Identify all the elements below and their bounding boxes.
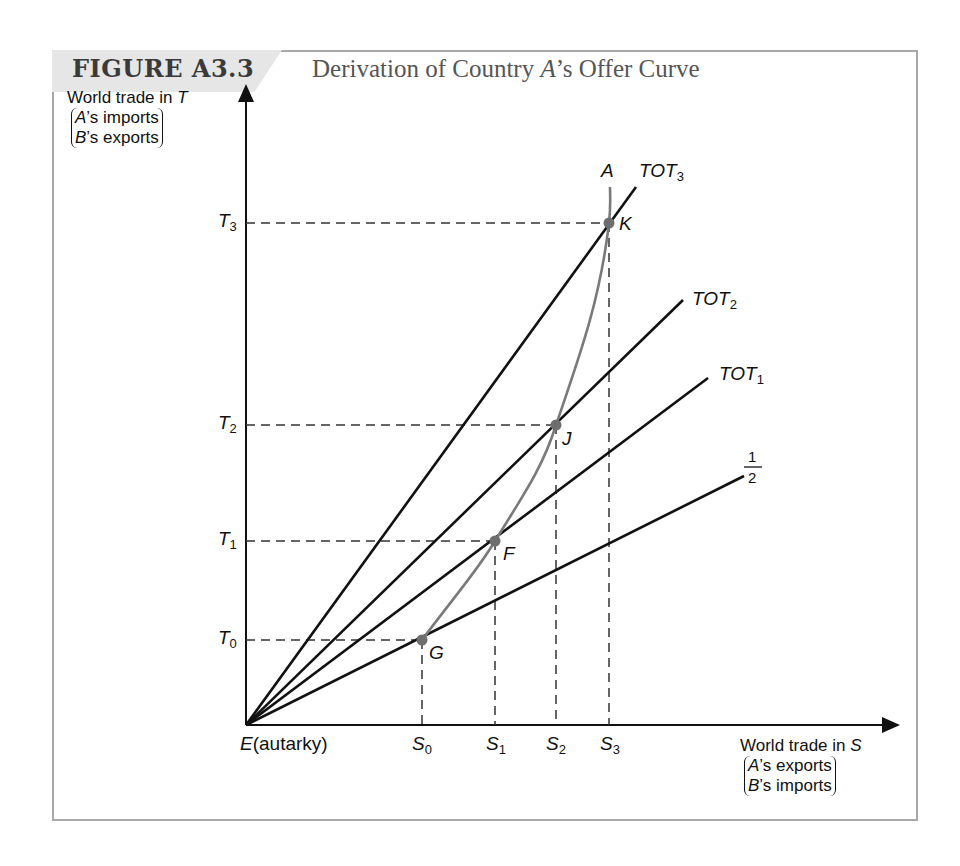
point-label-f: F [503, 543, 515, 565]
half-line [246, 476, 744, 725]
x-axis-title: World trade in S A’s exports B’s imports [740, 736, 862, 796]
point-k [604, 218, 615, 229]
half-label-den: 2 [748, 469, 756, 486]
origin-label: E(autarky) [240, 733, 328, 755]
point-label-j: J [562, 428, 572, 450]
y-tick-t3: T3 [218, 210, 237, 234]
x-tick-s2: S2 [546, 733, 566, 757]
x-tick-s0: S0 [412, 733, 432, 757]
tot3-label: TOT3 [639, 160, 684, 184]
trade-points [417, 218, 615, 646]
terms-of-trade-rays [246, 187, 744, 725]
tot1-label: TOT1 [719, 363, 764, 387]
y-axis-title: World trade in T A’s imports B’s exports [67, 88, 188, 148]
y-tick-t0: T0 [218, 627, 237, 651]
point-label-g: G [429, 642, 444, 664]
y-tick-t2: T2 [218, 412, 237, 436]
x-tick-s1: S1 [486, 733, 506, 757]
half-label-num: 1 [748, 448, 756, 465]
point-j [551, 420, 562, 431]
point-label-k: K [619, 213, 632, 235]
point-f [490, 536, 501, 547]
point-g [417, 635, 428, 646]
tot1-line [246, 378, 708, 725]
tot2-line [246, 300, 683, 725]
tot2-label: TOT2 [692, 288, 737, 312]
offer-curve-label: A [601, 160, 614, 182]
y-tick-t1: T1 [218, 528, 237, 552]
x-tick-s3: S3 [600, 733, 620, 757]
